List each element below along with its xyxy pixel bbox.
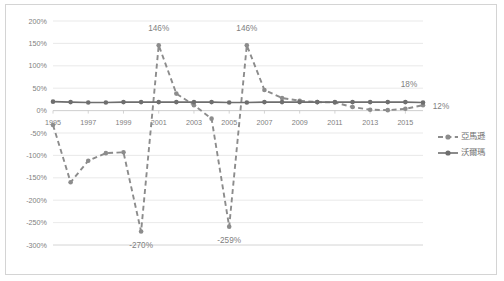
x-axis-label: 2009 xyxy=(292,118,308,127)
y-axis-label: -150% xyxy=(26,173,47,182)
data-point xyxy=(297,100,302,105)
y-axis-label: 150% xyxy=(29,39,48,48)
data-point xyxy=(227,100,232,105)
legend-label-1: 亞馬遜 xyxy=(461,131,486,141)
data-point xyxy=(192,100,197,105)
data-point xyxy=(104,151,109,156)
data-point xyxy=(385,108,390,113)
y-axis-label: 100% xyxy=(29,61,48,70)
y-axis-label: -200% xyxy=(26,196,47,205)
data-point xyxy=(315,100,320,105)
data-label: 146% xyxy=(148,24,169,33)
data-label: 12% xyxy=(433,102,449,111)
x-axis-label: 2013 xyxy=(362,118,378,127)
data-point xyxy=(227,224,232,229)
data-point xyxy=(86,158,91,163)
y-axis-label: 200% xyxy=(29,17,48,26)
data-point xyxy=(262,100,267,105)
data-point xyxy=(245,43,250,48)
data-label: -259% xyxy=(217,236,241,245)
data-point xyxy=(368,107,373,112)
legend-label-2: 沃爾瑪 xyxy=(461,147,485,157)
data-point xyxy=(421,100,426,105)
data-point xyxy=(104,100,109,105)
data-point xyxy=(121,150,126,155)
series-line-1 xyxy=(53,45,423,231)
x-axis-label: 2011 xyxy=(327,118,342,127)
data-point xyxy=(121,100,126,105)
data-point xyxy=(68,100,73,105)
data-point xyxy=(280,100,285,105)
x-axis-label: 1997 xyxy=(80,118,96,127)
y-axis-label: 0% xyxy=(37,106,48,115)
data-point xyxy=(156,43,161,48)
data-label: -270% xyxy=(129,241,153,250)
data-point xyxy=(403,100,408,105)
data-label: 18% xyxy=(401,80,417,89)
data-point xyxy=(139,229,144,234)
x-axis-label: 2007 xyxy=(256,118,272,127)
data-point xyxy=(350,105,355,110)
chart-container: 200%150%100%50%0%-50%-100%-150%-200%-250… xyxy=(5,4,497,275)
data-point xyxy=(68,180,73,185)
x-axis-label: 1999 xyxy=(115,118,131,127)
x-axis-label: 2001 xyxy=(151,118,167,127)
data-point xyxy=(86,100,91,105)
y-axis-label: -50% xyxy=(30,129,47,138)
data-point xyxy=(51,123,56,128)
data-point xyxy=(209,116,214,121)
data-point xyxy=(262,88,267,93)
y-axis-label: -250% xyxy=(26,218,47,227)
x-axis-label: 2003 xyxy=(186,118,202,127)
data-point xyxy=(385,100,390,105)
data-point xyxy=(51,99,56,104)
y-axis-label: 50% xyxy=(33,84,48,93)
data-point xyxy=(245,100,250,105)
y-axis-label: -100% xyxy=(26,151,47,160)
line-chart-plot: 200%150%100%50%0%-50%-100%-150%-200%-250… xyxy=(6,5,496,274)
y-axis-label: -300% xyxy=(26,241,47,250)
data-point xyxy=(156,100,161,105)
data-point xyxy=(333,100,338,105)
data-label: 146% xyxy=(236,24,257,33)
data-point xyxy=(174,91,179,96)
data-point xyxy=(139,100,144,105)
data-point xyxy=(209,100,214,105)
data-point xyxy=(280,96,285,101)
data-point xyxy=(350,100,355,105)
data-point xyxy=(174,100,179,105)
legend-marker-2 xyxy=(445,150,450,155)
x-axis-label: 2005 xyxy=(221,118,237,127)
legend-marker-1 xyxy=(445,134,450,139)
series-line-2 xyxy=(53,102,423,103)
data-point xyxy=(403,107,408,112)
data-point xyxy=(368,100,373,105)
x-axis-label: 2015 xyxy=(397,118,413,127)
